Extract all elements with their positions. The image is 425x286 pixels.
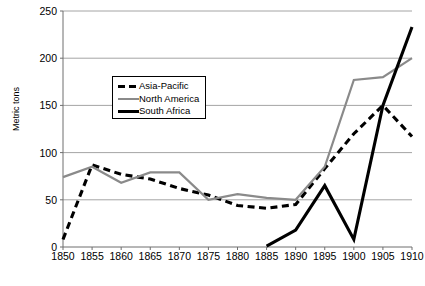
gray-line-swatch-icon	[117, 94, 139, 104]
y-tick-label: 100	[27, 148, 57, 158]
y-tick-label: 50	[27, 195, 57, 205]
chart-legend: Asia-Pacific North America South Africa	[112, 76, 206, 119]
legend-label: Asia-Pacific	[139, 81, 189, 91]
legend-item-asia-pacific: Asia-Pacific	[117, 80, 205, 93]
legend-label: North America	[139, 94, 199, 104]
legend-item-south-africa: South Africa	[117, 105, 205, 118]
black-line-swatch-icon	[117, 106, 139, 116]
y-tick-label: 150	[27, 100, 57, 110]
y-tick-label: 200	[27, 53, 57, 63]
legend-item-north-america: North America	[117, 93, 205, 106]
y-tick-label: 250	[27, 6, 57, 16]
line-chart: Metric tons Asia-Pacific North America S…	[0, 0, 425, 286]
legend-label: South Africa	[139, 106, 190, 116]
plot-area	[0, 0, 425, 286]
x-tick-label: 1910	[392, 251, 425, 262]
dashed-line-swatch-icon	[117, 81, 139, 91]
series-line-south-africa	[267, 27, 412, 246]
